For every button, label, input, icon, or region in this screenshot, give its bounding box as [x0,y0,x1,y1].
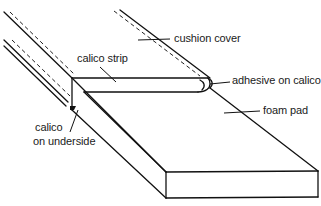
label-calico-underside-line2: on underside [33,135,95,148]
foam-pad-shape [72,78,318,198]
leader-calico-underside [70,110,78,132]
label-calico-strip: calico strip [77,52,128,65]
label-calico-underside-line1: calico [35,121,63,134]
leader-calico-strip [100,67,116,82]
calico-strip-shape [72,78,210,110]
left-cover-lower [4,40,70,106]
label-adhesive-on-calico: adhesive on calico [232,74,321,87]
left-cover-upper [4,12,74,78]
calico-underside-marker [70,106,76,110]
leader-adhesive [210,82,230,84]
label-foam-pad: foam pad [263,104,308,117]
leader-cushion-cover [138,39,170,40]
label-cushion-cover: cushion cover [174,32,241,45]
